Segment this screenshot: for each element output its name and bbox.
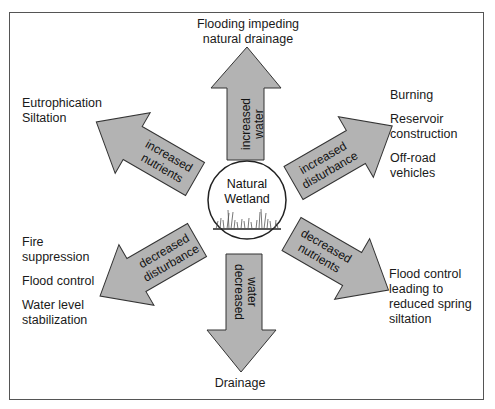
outcome-top: Flooding impeding natural drainage xyxy=(193,17,303,47)
outcome-text: Off-road xyxy=(390,151,457,166)
outcome-lower-right: Flood control leading to reduced spring … xyxy=(389,267,472,327)
center-label: Natural xyxy=(227,177,267,191)
outcome-text: construction xyxy=(390,127,457,142)
outcome-lower-left: Fire suppression Flood control Water lev… xyxy=(22,235,94,328)
outcome-text: Burning xyxy=(390,88,457,103)
outcome-text: suppression xyxy=(22,250,94,265)
outcome-text: Water level xyxy=(22,298,94,313)
diagram-canvas: increased water decreased water increase… xyxy=(0,0,495,409)
outcome-text: Eutrophication xyxy=(22,96,102,111)
outcome-text: natural drainage xyxy=(193,32,303,47)
arrow-label: increased xyxy=(239,98,253,150)
outcome-text: Flood control xyxy=(22,274,94,289)
outcome-text: stabilization xyxy=(22,313,94,328)
arrow-label: water xyxy=(245,276,259,306)
arrow-decreased-water: decreased water xyxy=(207,254,276,372)
outcome-text: Flooding impeding xyxy=(193,17,303,32)
arrow-label: decreased xyxy=(232,264,246,320)
outcome-text: siltation xyxy=(389,312,472,327)
arrow-label: water xyxy=(252,109,266,139)
outcome-upper-left: Eutrophication Siltation xyxy=(22,96,102,126)
arrow-decreased-disturbance: decreased disturbance xyxy=(83,210,215,327)
outcome-text: leading to xyxy=(389,282,472,297)
arrow-decreased-nutrients: decreased nutrients xyxy=(274,204,406,321)
arrow-increased-water: increased water xyxy=(211,47,281,160)
natural-wetland-node: Natural Wetland xyxy=(208,161,286,239)
outcome-text: Flood control xyxy=(389,267,472,282)
outcome-text: Siltation xyxy=(22,111,102,126)
outcome-text: vehicles xyxy=(390,166,457,181)
outcome-bottom: Drainage xyxy=(200,376,280,391)
outcome-text: Fire xyxy=(22,235,94,250)
outcome-text: reduced spring xyxy=(389,297,472,312)
outcome-text: Reservoir xyxy=(390,112,457,127)
outcome-text: Drainage xyxy=(200,376,280,391)
outcome-upper-right: Burning Reservoir construction Off-road … xyxy=(390,88,457,181)
center-label: Wetland xyxy=(224,192,270,206)
